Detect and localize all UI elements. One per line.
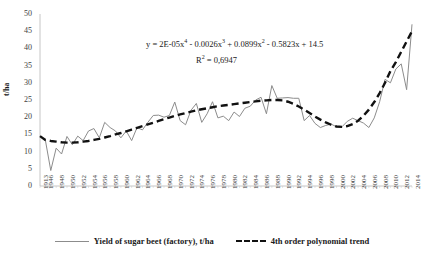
x-tick-1962: 1962 bbox=[135, 175, 142, 189]
x-tick-1970: 1970 bbox=[178, 175, 185, 189]
legend-label-yield: Yield of sugar beet (factory), t/ha bbox=[94, 236, 214, 246]
x-tick-1972: 1972 bbox=[189, 175, 196, 189]
y-tick-5: 5 bbox=[10, 165, 32, 173]
trend-equation-annotation: y = 2E-05x4 - 0.0026x3 + 0.0899x2 - 0.58… bbox=[146, 38, 323, 49]
x-tick-2000: 2000 bbox=[340, 175, 347, 189]
x-tick-1966: 1966 bbox=[156, 175, 163, 189]
x-tick-1948: 1948 bbox=[59, 175, 66, 189]
x-tick-1990: 1990 bbox=[286, 175, 293, 189]
legend-item-yield: Yield of sugar beet (factory), t/ha bbox=[55, 236, 214, 246]
legend-label-trend: 4th order polynomial trend bbox=[271, 236, 370, 246]
x-tick-1954: 1954 bbox=[92, 175, 99, 189]
x-tick-1952: 1952 bbox=[81, 175, 88, 189]
y-tick-30: 30 bbox=[10, 79, 32, 87]
chart-legend: Yield of sugar beet (factory), t/ha 4th … bbox=[0, 236, 424, 246]
x-tick-1978: 1978 bbox=[221, 175, 228, 189]
x-tick-1988: 1988 bbox=[275, 175, 282, 189]
x-tick-1964: 1964 bbox=[145, 175, 152, 189]
x-tick-1994: 1994 bbox=[307, 175, 314, 189]
x-tick-2012: 2012 bbox=[404, 175, 411, 189]
x-tick-2002: 2002 bbox=[350, 175, 357, 189]
chart-container: t/ha 05101520253035404550 19131946194819… bbox=[0, 0, 424, 260]
x-tick-2006: 2006 bbox=[372, 175, 379, 189]
y-tick-20: 20 bbox=[10, 113, 32, 121]
x-tick-1958: 1958 bbox=[113, 175, 120, 189]
y-tick-15: 15 bbox=[10, 130, 32, 138]
x-tick-1950: 1950 bbox=[70, 175, 77, 189]
x-tick-2010: 2010 bbox=[393, 175, 400, 189]
y-tick-0: 0 bbox=[10, 182, 32, 190]
y-tick-10: 10 bbox=[10, 148, 32, 156]
x-tick-1968: 1968 bbox=[167, 175, 174, 189]
x-tick-1982: 1982 bbox=[242, 175, 249, 189]
x-tick-1974: 1974 bbox=[199, 175, 206, 189]
x-tick-1980: 1980 bbox=[232, 175, 239, 189]
solid-line-gray-icon bbox=[55, 241, 89, 242]
y-tick-35: 35 bbox=[10, 62, 32, 70]
x-tick-2004: 2004 bbox=[361, 175, 368, 189]
x-tick-1956: 1956 bbox=[102, 175, 109, 189]
y-tick-45: 45 bbox=[10, 27, 32, 35]
y-tick-50: 50 bbox=[10, 10, 32, 18]
x-tick-1960: 1960 bbox=[124, 175, 131, 189]
x-tick-1998: 1998 bbox=[329, 175, 336, 189]
r-squared-annotation: R2 = 0,6947 bbox=[196, 54, 237, 65]
x-tick-1986: 1986 bbox=[264, 175, 271, 189]
legend-item-trend: 4th order polynomial trend bbox=[236, 236, 370, 246]
x-tick-1946: 1946 bbox=[48, 175, 55, 189]
dashed-line-black-icon bbox=[236, 240, 266, 242]
y-tick-40: 40 bbox=[10, 44, 32, 52]
x-tick-2014: 2014 bbox=[415, 175, 422, 189]
x-tick-1976: 1976 bbox=[210, 175, 217, 189]
x-tick-2008: 2008 bbox=[383, 175, 390, 189]
y-tick-25: 25 bbox=[10, 96, 32, 104]
x-tick-1984: 1984 bbox=[253, 175, 260, 189]
x-tick-1992: 1992 bbox=[296, 175, 303, 189]
x-tick-1996: 1996 bbox=[318, 175, 325, 189]
